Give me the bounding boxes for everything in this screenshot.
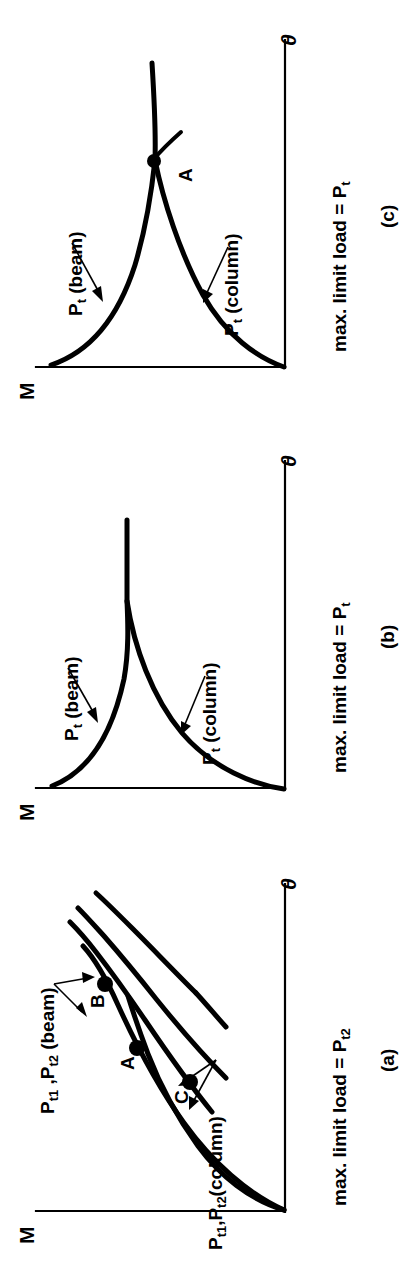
point-marker-b	[97, 976, 113, 992]
axis-label-theta: θ	[278, 455, 299, 467]
curve-unloading-stub	[154, 132, 181, 159]
panel-b-plot	[0, 421, 418, 842]
curve-label-beam: Pt1 ,Pt2 (beam)	[38, 988, 61, 1114]
curve-label-column: Pt (column)	[222, 234, 245, 337]
curve-label-beam: Pt (beam)	[66, 231, 89, 316]
panel-a: M θ Pt1 ,Pt2 (beam) Pt1,Pt2(column) A B …	[0, 842, 418, 1263]
point-marker-a	[147, 154, 161, 168]
panel-c: M θ Pt (beam) Pt (column) A max. limit l…	[0, 0, 418, 421]
panel-id-label: (b)	[378, 625, 397, 649]
arrowhead-beam-icon	[87, 707, 98, 723]
axis-label-theta-text: θ	[277, 34, 300, 46]
axis-label-m-text: M	[15, 383, 38, 401]
axis-label-m-text: M	[15, 804, 38, 822]
panel-id-label: (a)	[378, 1049, 397, 1072]
caption-text: max. limit load = Pt	[330, 181, 353, 352]
curve-label-beam: Pt (beam)	[62, 656, 85, 741]
curve-pt-beam	[51, 63, 155, 365]
caption-text: max. limit load = Pt2	[330, 1028, 353, 1206]
curve-label-column: Pt1,Pt2(column)	[206, 1116, 229, 1250]
curve-beam-tail	[196, 993, 226, 1027]
arrowhead-beam2-icon	[76, 1002, 87, 1017]
curve-pt-column	[155, 160, 284, 367]
axis-label-theta: θ	[278, 878, 299, 890]
arrowhead-beam-icon	[92, 286, 103, 302]
axis-label-m: M	[16, 1227, 37, 1245]
point-marker-a	[129, 1040, 145, 1056]
axis-label-m: M	[16, 804, 37, 822]
panel-c-plot	[0, 0, 418, 421]
point-label-c: C	[172, 1090, 191, 1104]
point-label-b: B	[88, 994, 107, 1008]
curve-pt2-beam	[78, 908, 226, 1078]
point-label-a: A	[118, 1056, 137, 1070]
arrowhead-beam1-icon	[82, 972, 95, 983]
axis-label-m: M	[16, 383, 37, 401]
panel-id-label: (c)	[378, 205, 397, 228]
axis-label-theta-text: θ	[277, 878, 300, 890]
point-label-a: A	[176, 168, 195, 182]
curve-pt-beam	[52, 520, 128, 786]
caption-text: max. limit load = Pt	[330, 602, 353, 773]
figure-root: M θ Pt (beam) Pt (column) A max. limit l…	[0, 0, 418, 1264]
axis-label-theta: θ	[278, 34, 299, 46]
axis-label-theta-text: θ	[277, 455, 300, 467]
panel-b: M θ Pt (beam) Pt (column) max. limit loa…	[0, 421, 418, 842]
axis-label-m-text: M	[15, 1227, 38, 1245]
axes-group	[36, 40, 285, 368]
axes-group	[36, 884, 285, 1212]
curve-label-column: Pt (column)	[200, 663, 223, 766]
